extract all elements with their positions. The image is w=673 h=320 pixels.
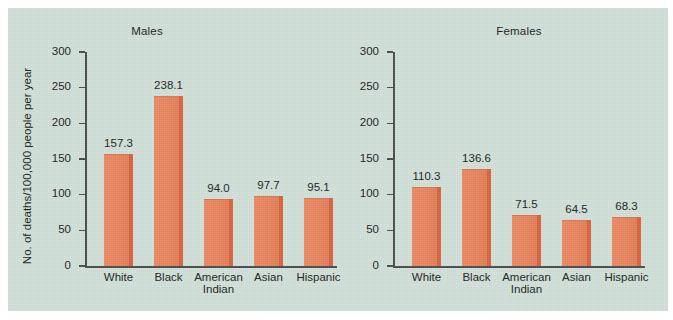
bar-side-shading <box>487 169 491 266</box>
bar-face <box>462 169 487 266</box>
y-axis-tick <box>79 123 85 125</box>
bar <box>254 196 283 266</box>
bar-value-label: 97.7 <box>246 179 292 191</box>
y-axis-tick-label: 0 <box>345 259 379 271</box>
y-axis-tick-label: 250 <box>37 80 71 92</box>
bar-side-shading <box>537 215 541 266</box>
y-axis-tick-label: 300 <box>345 45 379 57</box>
bar-face <box>412 187 437 266</box>
bar-face <box>104 154 129 266</box>
bar-side-shading <box>437 187 441 266</box>
bar-value-label: 157.3 <box>96 137 142 149</box>
y-axis-tick-label: 50 <box>37 223 71 235</box>
bar <box>204 199 233 266</box>
y-axis-line <box>85 52 87 266</box>
bar-side-shading <box>637 217 641 266</box>
y-axis-tick <box>387 194 393 196</box>
bar <box>512 215 541 266</box>
y-axis-line <box>393 52 395 266</box>
bar-value-label: 136.6 <box>454 152 500 164</box>
bar-face <box>304 198 329 266</box>
chart-females: Females 050100150200250300110.3White136.… <box>338 8 668 311</box>
y-axis-tick <box>387 230 393 232</box>
bar <box>154 96 183 266</box>
x-axis-category-label: Hispanic <box>592 271 662 283</box>
y-axis-tick-label: 0 <box>37 259 71 271</box>
bar-side-shading <box>329 198 333 266</box>
y-axis-tick-label: 200 <box>37 116 71 128</box>
y-axis-tick <box>387 265 393 267</box>
y-axis-tick-label: 50 <box>345 223 379 235</box>
bar <box>412 187 441 266</box>
x-axis-line <box>85 266 337 268</box>
figure-panel: Males No. of deaths/100,000 people per y… <box>8 8 668 311</box>
x-axis-line <box>393 266 645 268</box>
y-axis-tick-label: 200 <box>345 116 379 128</box>
y-axis-tick <box>387 51 393 53</box>
bar-side-shading <box>229 199 233 266</box>
y-axis-tick <box>79 194 85 196</box>
y-axis-tick <box>387 158 393 160</box>
bar-side-shading <box>279 196 283 266</box>
bar-value-label: 95.1 <box>296 181 342 193</box>
bar-face <box>612 217 637 266</box>
y-axis-tick-label: 150 <box>345 152 379 164</box>
y-axis-tick-label: 150 <box>37 152 71 164</box>
y-axis-tick-label: 250 <box>345 80 379 92</box>
bar-side-shading <box>587 220 591 266</box>
bar-face <box>204 199 229 266</box>
bar-face <box>254 196 279 266</box>
y-axis-tick-label: 300 <box>37 45 71 57</box>
bar-value-label: 94.0 <box>196 182 242 194</box>
bar-side-shading <box>129 154 133 266</box>
y-axis-tick <box>79 87 85 89</box>
bar <box>104 154 133 266</box>
y-axis-tick-label: 100 <box>345 187 379 199</box>
plot-area-females: 050100150200250300110.3White136.6Black71… <box>338 8 668 311</box>
y-axis-tick <box>79 230 85 232</box>
bar-face <box>562 220 587 266</box>
bar <box>462 169 491 266</box>
bar <box>304 198 333 266</box>
y-axis-tick <box>79 51 85 53</box>
bar-value-label: 68.3 <box>604 200 650 212</box>
y-axis-tick <box>387 123 393 125</box>
bar-value-label: 238.1 <box>146 79 192 91</box>
chart-males: Males No. of deaths/100,000 people per y… <box>8 8 338 311</box>
bar <box>562 220 591 266</box>
bar <box>612 217 641 266</box>
y-axis-tick <box>79 265 85 267</box>
bar-value-label: 64.5 <box>554 203 600 215</box>
bar-value-label: 71.5 <box>504 198 550 210</box>
y-axis-tick <box>79 158 85 160</box>
bar-face <box>512 215 537 266</box>
plot-area-males: 050100150200250300157.3White238.1Black94… <box>8 8 338 311</box>
y-axis-tick-label: 100 <box>37 187 71 199</box>
bar-value-label: 110.3 <box>404 170 450 182</box>
bar-side-shading <box>179 96 183 266</box>
y-axis-tick <box>387 87 393 89</box>
bar-face <box>154 96 179 266</box>
